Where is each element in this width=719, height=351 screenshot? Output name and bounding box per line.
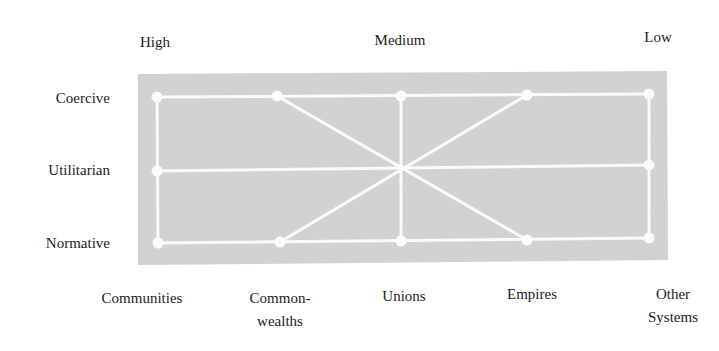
column-label-line: Communities (82, 289, 202, 307)
node-coercive-unions (396, 91, 407, 102)
node-normative-empires (522, 235, 533, 246)
node-normative-other (644, 233, 655, 244)
node-utilitarian-center (398, 165, 405, 172)
node-coercive-other (644, 89, 655, 100)
node-normative-commonwealths (275, 237, 286, 248)
node-normative-unions (396, 236, 407, 247)
node-coercive-communities (152, 92, 163, 103)
column-label-commonwealths: Common- wealths (230, 287, 330, 333)
row-label-coercive: Coercive (0, 89, 110, 107)
header-label-high: High (125, 33, 185, 51)
column-label-line: Common- (230, 287, 330, 310)
node-normative-communities (153, 238, 164, 249)
column-label-line: Unions (364, 287, 444, 305)
column-label-line: wealths (230, 310, 330, 333)
row-label-utilitarian: Utilitarian (0, 161, 110, 179)
row-label-normative: Normative (0, 234, 110, 252)
column-label-line: Empires (492, 285, 572, 303)
node-coercive-commonwealths (272, 91, 283, 102)
node-coercive-empires (522, 90, 533, 101)
column-label-line: Other (633, 283, 713, 306)
column-label-other-systems: Other Systems (633, 283, 713, 329)
header-label-low: Low (628, 28, 688, 46)
column-label-line: Systems (633, 306, 713, 329)
column-label-unions: Unions (364, 287, 444, 305)
node-utilitarian-communities (152, 166, 163, 177)
node-utilitarian-other (644, 160, 655, 171)
header-label-medium: Medium (360, 31, 440, 49)
column-label-communities: Communities (82, 289, 202, 307)
column-label-empires: Empires (492, 285, 572, 303)
